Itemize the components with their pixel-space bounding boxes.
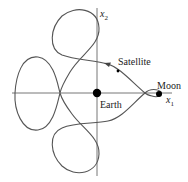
moon-dot — [156, 91, 162, 97]
direction-arrow-icon — [104, 63, 111, 68]
x1-axis-label: x1 — [166, 95, 174, 108]
orbit-figure — [0, 0, 188, 182]
satellite-label: Satellite — [118, 57, 151, 67]
x2-axis-label: x2 — [100, 9, 108, 22]
orbit-diagram: x2 x1 Satellite Moon Earth — [0, 0, 188, 182]
satellite-trajectory — [15, 10, 162, 173]
earth-dot — [93, 89, 101, 97]
x1-label-sub: 1 — [170, 100, 174, 108]
earth-label: Earth — [100, 100, 122, 110]
satellite-dot — [117, 70, 120, 73]
x2-label-sub: 2 — [104, 14, 108, 22]
moon-label: Moon — [157, 81, 181, 91]
